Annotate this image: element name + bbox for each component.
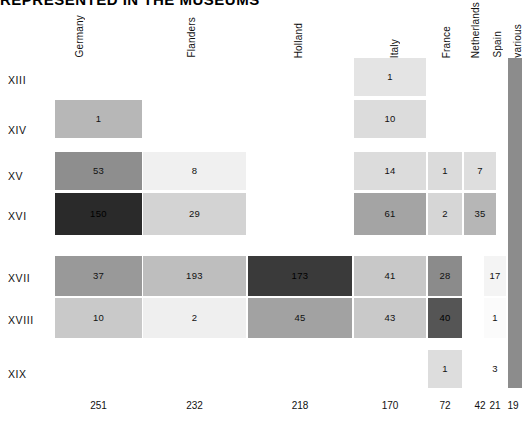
column-header-label: Italy — [389, 39, 400, 58]
cell-xix-france: 1 — [428, 350, 462, 388]
cell-value: 8 — [192, 166, 198, 176]
row-label-xiii: XIII — [8, 74, 26, 86]
column-header-label: France — [441, 26, 452, 58]
cell-xvii-holland: 173 — [248, 256, 352, 296]
cell-value: 45 — [294, 313, 305, 323]
cell-value: 29 — [189, 209, 200, 219]
row-label-xiv: XIV — [8, 124, 27, 136]
cell-xiv-italy: 10 — [354, 100, 426, 138]
cell-value: 10 — [384, 114, 395, 124]
cell-value: 7 — [477, 166, 483, 176]
cell-xviii-france: 40 — [428, 298, 462, 338]
column-header-label: Netherlands — [470, 2, 481, 58]
cell-xvi-germany: 150 — [55, 193, 142, 235]
cell-value: 2 — [192, 313, 198, 323]
cell-value: 1 — [442, 166, 448, 176]
total-flanders: 232 — [143, 400, 246, 411]
cell-value: 17 — [489, 271, 500, 281]
row-label-xvii: XVII — [8, 272, 30, 284]
row-label-xix: XIX — [8, 368, 27, 380]
cell-xvii-spain: 17 — [484, 256, 506, 296]
row-label-xviii: XVIII — [8, 314, 34, 326]
cell-value: 35 — [474, 209, 485, 219]
cell-value: 14 — [384, 166, 395, 176]
cell-value: 37 — [93, 271, 104, 281]
cell-value: 40 — [439, 313, 450, 323]
cell-xvii-france: 28 — [428, 256, 462, 296]
cell-value: 2 — [442, 209, 448, 219]
total-germany: 251 — [55, 400, 142, 411]
cell-xvii-italy: 41 — [354, 256, 426, 296]
cell-value: 1 — [442, 364, 448, 374]
total-holland: 218 — [248, 400, 352, 411]
cell-value: 3 — [492, 364, 498, 374]
total-various: 19 — [502, 400, 524, 411]
cell-xv-germany: 53 — [55, 152, 142, 190]
cell-xv-netherlands: 7 — [464, 152, 496, 190]
cell-xvii-flanders: 193 — [143, 256, 246, 296]
cell-xix-spain: 3 — [484, 350, 506, 388]
cell-xvi-italy: 61 — [354, 193, 426, 235]
cell-xvii-germany: 37 — [55, 256, 142, 296]
cell-xviii-flanders: 2 — [143, 298, 246, 338]
cell-xiv-germany: 1 — [55, 100, 142, 138]
cell-value: 43 — [384, 313, 395, 323]
cell-xv-france: 1 — [428, 152, 462, 190]
total-france: 72 — [428, 400, 462, 411]
page-title: REPRESENTED IN THE MUSEUMS — [0, 0, 420, 8]
cell-xvi-netherlands: 35 — [464, 193, 496, 235]
column-header-label: Spain — [492, 31, 503, 58]
column-header-label: Germany — [74, 15, 85, 58]
cell-xvi-flanders: 29 — [143, 193, 246, 235]
cell-value: 150 — [90, 209, 107, 219]
cell-value: 173 — [292, 271, 309, 281]
cell-value: 1 — [492, 313, 498, 323]
cell-xiii-italy: 1 — [354, 58, 426, 96]
row-label-xvi: XVI — [8, 210, 27, 222]
cell-xv-italy: 14 — [354, 152, 426, 190]
cell-value: 41 — [384, 271, 395, 281]
cell-value: 193 — [186, 271, 203, 281]
cell-value: 61 — [384, 209, 395, 219]
cell-xvi-france: 2 — [428, 193, 462, 235]
cell-value: 53 — [93, 166, 104, 176]
column-header-label: Flanders — [186, 17, 197, 58]
cell-xviii-italy: 43 — [354, 298, 426, 338]
total-italy: 170 — [354, 400, 426, 411]
column-header-label: various — [512, 24, 523, 58]
cell-value: 1 — [387, 72, 393, 82]
various-bar — [508, 58, 522, 388]
cell-value: 1 — [96, 114, 102, 124]
cell-xv-flanders: 8 — [143, 152, 246, 190]
cell-xviii-germany: 10 — [55, 298, 142, 338]
cell-xviii-holland: 45 — [248, 298, 352, 338]
row-label-xv: XV — [8, 170, 23, 182]
cell-value: 28 — [439, 271, 450, 281]
column-header-label: Holland — [293, 23, 304, 58]
cell-value: 10 — [93, 313, 104, 323]
heatmap-chart: REPRESENTED IN THE MUSEUMS GermanyFlande… — [0, 0, 524, 421]
cell-xviii-spain: 1 — [484, 298, 506, 338]
